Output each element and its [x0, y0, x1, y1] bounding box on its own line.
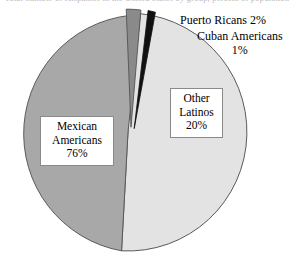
- slice-label-cuban-americans: Cuban Americans 1%: [197, 29, 283, 57]
- slice-label-line1: Other: [177, 92, 216, 106]
- slice-label-line2: Latinos: [177, 106, 216, 120]
- slice-label-line1: Puerto Ricans 2%: [180, 13, 266, 27]
- slice-label-puerto-ricans: Puerto Ricans 2%: [180, 13, 266, 27]
- slice-label-value: 20%: [177, 119, 216, 133]
- slice-label-line1: Mexican: [47, 120, 107, 134]
- slice-label-value: 1%: [197, 43, 283, 57]
- slice-label-line1: Cuban Americans: [197, 29, 283, 43]
- slice-label-line2: Americans: [47, 134, 107, 148]
- slice-label-other-latinos: Other Latinos 20%: [170, 88, 223, 138]
- slice-label-mexican-americans: Mexican Americans 76%: [40, 116, 114, 166]
- pie-chart-figure: Total number of Hispanics in the United …: [0, 0, 294, 267]
- slice-label-value: 76%: [47, 147, 107, 161]
